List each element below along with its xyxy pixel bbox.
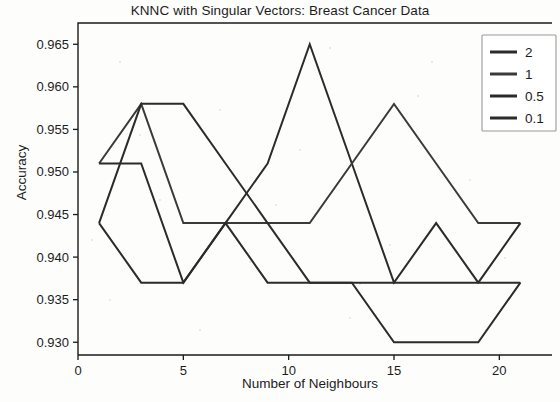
axes-spines [78, 23, 552, 355]
x-tick-label: 10 [281, 363, 295, 378]
legend-label-1: 1 [525, 67, 533, 82]
x-tick-label: 15 [387, 363, 401, 378]
legend-label-0-5: 0.5 [525, 89, 544, 104]
x-tick-label: 0 [74, 363, 81, 378]
x-axis-ticks: 05101520 [74, 355, 506, 378]
y-tick-label: 0.960 [36, 79, 69, 94]
y-axis-ticks: 0.9300.9350.9400.9450.9500.9550.9600.965 [36, 37, 78, 350]
scan-noise [91, 47, 521, 331]
y-tick-label: 0.930 [36, 335, 69, 350]
series-line-1 [99, 104, 520, 223]
y-tick-label: 0.950 [36, 164, 69, 179]
x-tick-label: 20 [492, 363, 506, 378]
y-tick-label: 0.935 [36, 292, 69, 307]
series-lines [99, 44, 520, 342]
y-tick-label: 0.965 [36, 37, 69, 52]
legend-label-2: 2 [525, 45, 533, 60]
chart-figure: KNNC with Singular Vectors: Breast Cance… [0, 0, 560, 402]
plot-area: 0.9300.9350.9400.9450.9500.9550.9600.965… [0, 0, 560, 402]
y-tick-label: 0.955 [36, 122, 69, 137]
chart-legend[interactable]: 210.50.1 [482, 35, 556, 131]
y-tick-label: 0.945 [36, 207, 69, 222]
legend-label-0-1: 0.1 [525, 111, 544, 126]
y-tick-label: 0.940 [36, 250, 69, 265]
x-tick-label: 5 [180, 363, 187, 378]
